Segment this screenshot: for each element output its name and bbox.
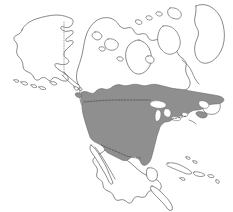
jamaica-island bbox=[180, 178, 185, 181]
central-america-outline bbox=[150, 186, 172, 210]
kodiak-island bbox=[50, 82, 57, 85]
cuba-island bbox=[167, 163, 193, 174]
aleutian-island-4 bbox=[39, 87, 46, 90]
aleutian-island-3 bbox=[31, 85, 37, 88]
cape-cod-detail bbox=[189, 120, 196, 124]
lake-ontario-cutout bbox=[182, 113, 188, 117]
puerto-rico-island bbox=[208, 175, 214, 178]
nova-scotia-range bbox=[196, 112, 207, 118]
aleutian-island-1 bbox=[14, 80, 19, 83]
victoria-island bbox=[105, 39, 119, 51]
greenland-outline bbox=[195, 5, 225, 64]
yucatan-peninsula bbox=[146, 168, 157, 182]
bahamas-island-2 bbox=[193, 161, 197, 164]
queen-charlotte-island bbox=[74, 87, 78, 91]
arctic-island-small-2 bbox=[146, 16, 152, 20]
lesser-antilles bbox=[216, 180, 220, 184]
arctic-island-small-4 bbox=[99, 47, 105, 51]
arctic-island-small-1 bbox=[136, 20, 142, 25]
southampton-island bbox=[146, 56, 154, 64]
arctic-island-small-3 bbox=[156, 12, 162, 16]
north-america-range-map: North America distribution map Outline m… bbox=[0, 0, 233, 212]
bahamas-island-1 bbox=[186, 157, 190, 160]
ellesmere-island bbox=[168, 8, 182, 19]
coastal-island-small bbox=[79, 88, 82, 91]
hispaniola-island bbox=[193, 172, 205, 177]
aleutian-island-2 bbox=[21, 82, 28, 85]
map-svg-canvas: North America distribution map Outline m… bbox=[0, 0, 233, 212]
arctic-island-small-5 bbox=[117, 57, 123, 61]
lake-huron-cutout bbox=[164, 109, 171, 118]
alaska-outline bbox=[14, 15, 73, 81]
